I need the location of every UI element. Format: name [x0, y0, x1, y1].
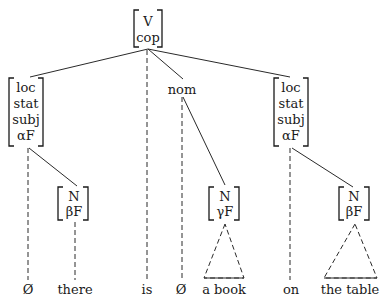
- node-label: loc: [16, 80, 35, 95]
- node-label: loc: [281, 80, 300, 95]
- edge-root-nom: [148, 49, 183, 79]
- node-right-loc: loc stat subj αF: [274, 78, 308, 146]
- right-bracket: [364, 187, 369, 220]
- node-root-v-cop: V cop: [134, 10, 162, 47]
- node-label: βF: [66, 204, 83, 219]
- left-bracket: [209, 187, 214, 220]
- node-label: αF: [282, 128, 300, 143]
- node-n-there: N βF: [58, 187, 88, 220]
- tree-edges: [28, 49, 377, 280]
- terminal-there: there: [57, 282, 93, 297]
- left-bracket: [58, 187, 63, 220]
- right-bracket: [234, 187, 239, 220]
- triangle-a-book: [204, 224, 244, 278]
- terminal-is: is: [142, 282, 153, 297]
- syntax-tree: V cop loc stat subj αF nom loc stat subj…: [0, 0, 381, 303]
- node-label: subj: [277, 112, 304, 127]
- triangle-the-table: [324, 224, 377, 278]
- node-label: stat: [279, 96, 305, 111]
- node-n-table: N βF: [339, 187, 369, 220]
- terminal-null-1: Ø: [23, 282, 34, 297]
- terminal-a-book: a book: [202, 282, 246, 297]
- terminals: Ø there is Ø a book on the table: [23, 282, 380, 297]
- node-n-book: N γF: [209, 187, 239, 220]
- edge-left-there: [29, 148, 77, 186]
- edge-right-table: [292, 148, 353, 187]
- node-label: βF: [346, 204, 363, 219]
- node-nom: nom: [168, 82, 197, 97]
- edge-root-left: [30, 49, 148, 77]
- terminal-on: on: [283, 282, 300, 297]
- left-bracket: [339, 187, 344, 220]
- node-left-loc: loc stat subj αF: [9, 78, 43, 146]
- node-label: N: [219, 189, 230, 204]
- node-label: cop: [136, 30, 159, 45]
- terminal-null-2: Ø: [176, 282, 187, 297]
- edge-nom-book: [183, 97, 225, 185]
- node-label: N: [68, 189, 79, 204]
- node-label: αF: [17, 128, 35, 143]
- edge-root-right: [148, 49, 290, 77]
- terminal-the-table: the table: [321, 282, 380, 297]
- node-label: V: [142, 14, 153, 29]
- node-label: N: [348, 189, 359, 204]
- node-label: subj: [12, 112, 39, 127]
- node-label: γF: [217, 204, 234, 219]
- node-label: stat: [14, 96, 40, 111]
- right-bracket: [83, 187, 88, 220]
